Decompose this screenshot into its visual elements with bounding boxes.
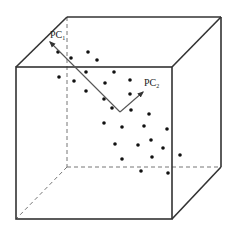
pc-axes: [50, 42, 143, 112]
data-point: [128, 92, 132, 96]
data-point: [178, 153, 182, 157]
top-left-depth-edge: [16, 17, 67, 67]
data-point: [166, 171, 170, 175]
data-point: [147, 112, 151, 116]
bottom-left-depth-edge: [16, 167, 67, 219]
data-point: [69, 56, 73, 60]
data-point: [110, 106, 114, 110]
data-point: [161, 146, 165, 150]
data-point: [86, 50, 90, 54]
data-point: [139, 169, 143, 173]
data-point: [84, 89, 88, 93]
data-point: [120, 157, 124, 161]
data-point: [57, 75, 61, 79]
data-point: [113, 142, 117, 146]
data-point: [165, 127, 169, 131]
data-point: [150, 155, 154, 159]
visible-edges: [16, 17, 221, 219]
pc2-label: PC2: [144, 77, 159, 89]
pc1-label: PC1: [50, 29, 65, 41]
data-point: [102, 121, 106, 125]
data-point: [142, 124, 146, 128]
data-point: [72, 79, 76, 83]
top-right-depth-edge: [172, 17, 221, 67]
data-point: [112, 70, 116, 74]
bottom-right-depth-edge: [172, 167, 221, 219]
data-point: [129, 108, 133, 112]
data-point: [120, 125, 124, 129]
data-point: [103, 81, 107, 85]
data-point: [84, 70, 88, 74]
pca-cube-diagram: PC1 PC2: [0, 0, 228, 229]
front-face: [16, 67, 172, 219]
data-point: [95, 58, 99, 62]
data-point: [128, 78, 132, 82]
data-point: [136, 143, 140, 147]
data-points: [56, 50, 182, 175]
data-point: [149, 138, 153, 142]
